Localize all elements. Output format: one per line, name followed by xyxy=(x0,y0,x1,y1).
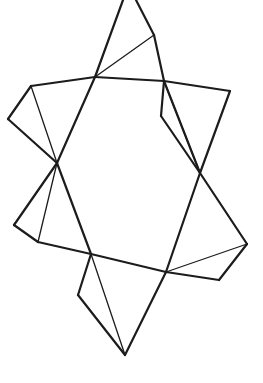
outline-edge xyxy=(154,35,164,81)
outline-edge xyxy=(125,272,166,355)
outline-edge xyxy=(14,163,57,225)
outline-edge xyxy=(57,163,91,254)
fold-line xyxy=(95,35,154,77)
outline-edge xyxy=(78,295,125,355)
net-drawing xyxy=(0,0,263,383)
hexagon-net-diagram xyxy=(0,0,263,383)
outline-edge xyxy=(161,81,164,116)
outline-edge xyxy=(38,242,91,254)
outline-edge xyxy=(200,173,247,244)
outline-edge xyxy=(200,91,230,173)
outline-edge xyxy=(95,0,123,77)
outline-edge xyxy=(8,86,31,119)
outline-edge xyxy=(136,0,154,35)
outline-edge xyxy=(166,272,219,280)
outline-edge xyxy=(78,254,91,295)
fold-line xyxy=(91,254,125,355)
outline-edge xyxy=(95,77,164,81)
outline-edge xyxy=(57,77,95,163)
outline-edge xyxy=(31,77,95,86)
outline-edge xyxy=(166,173,200,272)
outline-edge xyxy=(91,254,166,272)
outline-edge xyxy=(164,81,230,91)
outline-edge xyxy=(14,225,38,242)
